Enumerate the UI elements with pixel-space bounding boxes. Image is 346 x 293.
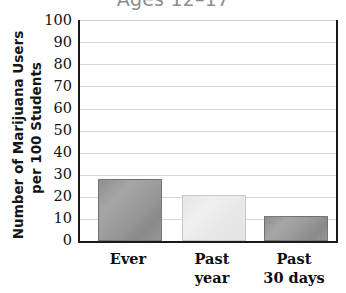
x-tick-label-past-30-days: Past 30 days (256, 249, 332, 287)
y-tick-label-80: 80 (36, 57, 72, 71)
gridline-60 (80, 109, 336, 110)
x-tick-label-past-30-days-line-2: 30 days (256, 268, 332, 287)
y-tick-label-40: 40 (36, 145, 72, 159)
y-tick-label-90: 90 (36, 35, 72, 49)
y-axis-title-line-1: Number of Marijuana Users (9, 20, 27, 250)
gridline-30 (80, 175, 336, 176)
y-tick-label-10: 10 (36, 211, 72, 225)
bar-ever (98, 179, 162, 241)
bar-past-year (182, 195, 246, 241)
gridline-80 (80, 64, 336, 65)
y-tick-label-70: 70 (36, 79, 72, 93)
x-tick-label-ever: Ever (96, 249, 160, 268)
x-tick-label-past-year: Past year (180, 249, 244, 287)
chart-title: Ages 12–17 (0, 0, 346, 10)
gridline-40 (80, 153, 336, 154)
y-tick-label-20: 20 (36, 189, 72, 203)
x-tick-label-ever-line-1: Ever (96, 249, 160, 268)
y-tick-label-0: 0 (36, 233, 72, 247)
y-tick-label-30: 30 (36, 167, 72, 181)
x-tick-label-past-year-line-1: Past (180, 249, 244, 268)
x-tick-label-past-year-line-2: year (180, 268, 244, 287)
y-tick-label-100: 100 (36, 13, 72, 27)
plot-area (78, 20, 338, 243)
chart-screenshot: Ages 12–17 Number of Marijuana Users per… (0, 0, 346, 293)
y-tick-label-50: 50 (36, 123, 72, 137)
x-tick-label-past-30-days-line-1: Past (256, 249, 332, 268)
bar-past-30-days (264, 216, 328, 241)
gridline-50 (80, 131, 336, 132)
gridline-100 (80, 20, 336, 21)
gridline-70 (80, 86, 336, 87)
gridline-90 (80, 42, 336, 43)
y-tick-label-60: 60 (36, 101, 72, 115)
